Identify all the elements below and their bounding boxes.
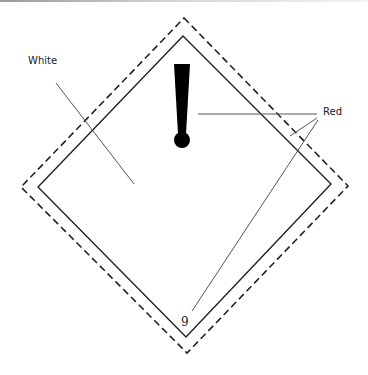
white-label: White (28, 55, 57, 66)
placard-diagram: White Red 9 (0, 0, 368, 375)
white-leader-line (56, 83, 134, 184)
red-label: Red (323, 106, 342, 117)
exclamation-icon (174, 64, 190, 148)
class-number-label: 9 (181, 315, 189, 329)
